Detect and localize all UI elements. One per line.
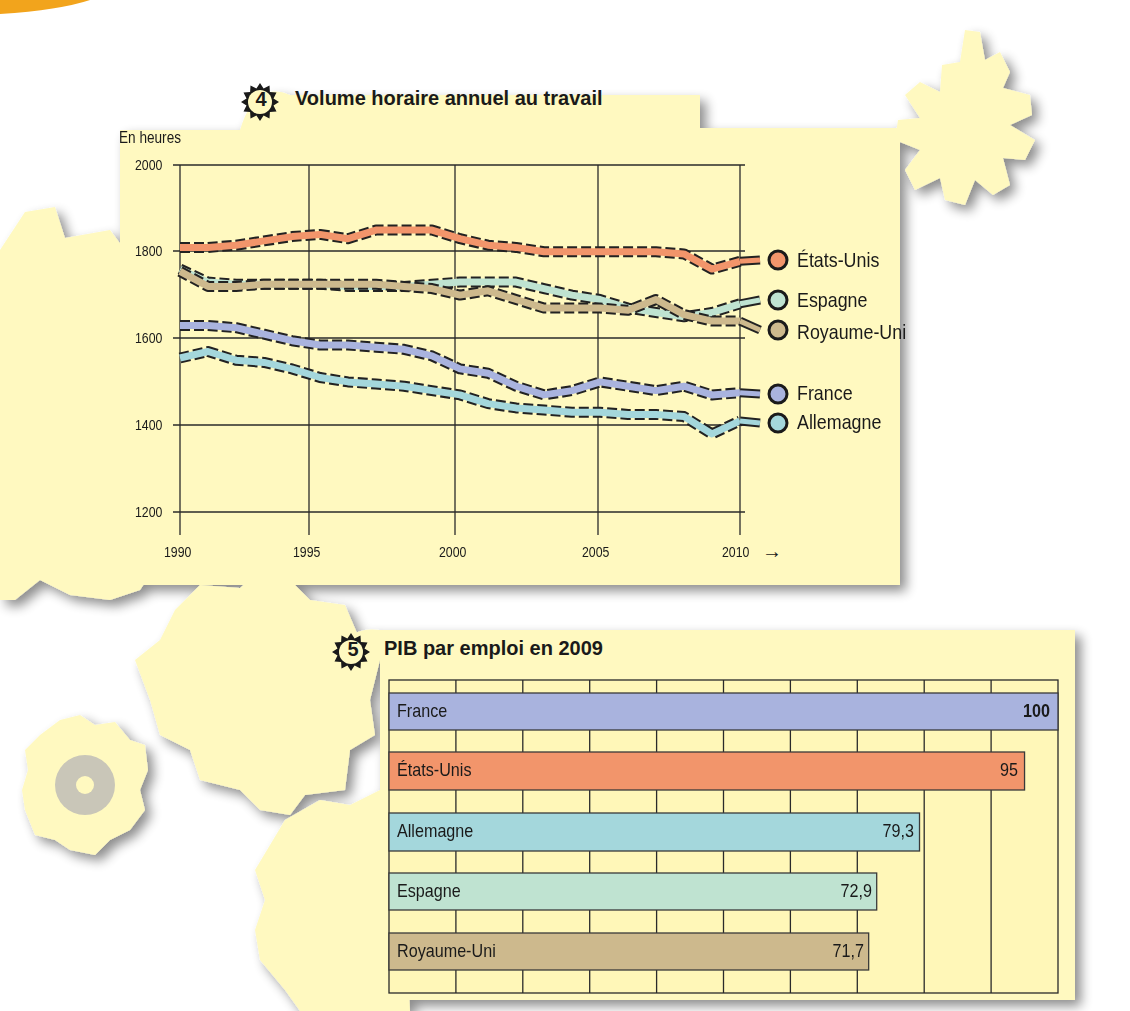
legend-marker-icon [769, 321, 787, 339]
gear-top-right-decoration [895, 30, 1035, 205]
gear-middle-decoration [135, 575, 380, 815]
x-tick-1990: 1990 [164, 543, 191, 560]
bar-label-allemagne: Allemagne [397, 820, 473, 842]
chart5-title: PIB par emploi en 2009 [384, 637, 603, 660]
infographic-background [0, 0, 1130, 1011]
top-accent-swoosh [0, 0, 90, 14]
chart4-number: 4 [252, 88, 270, 111]
y-axis-unit-label: En heures [119, 129, 181, 147]
x-tick-2000: 2000 [439, 543, 466, 560]
bar-label-espagne: Espagne [397, 880, 461, 902]
x-tick-2005: 2005 [582, 543, 609, 560]
bar [389, 693, 1058, 730]
bar-value-espagne: 72,9 [835, 880, 872, 902]
bar [389, 752, 1025, 790]
bar-value-etats-unis: 95 [984, 759, 1018, 781]
bar-label-royaume-uni: Royaume-Uni [397, 940, 496, 962]
x-tick-1995: 1995 [293, 543, 320, 560]
y-tick-1800: 1800 [135, 242, 162, 259]
legend-marker-icon [769, 291, 787, 309]
y-tick-1200: 1200 [135, 503, 162, 520]
x-tick-2010: 2010 [722, 543, 749, 560]
y-tick-1600: 1600 [135, 329, 162, 346]
bar-value-france: 100 [1016, 700, 1050, 722]
bar-value-royaume-uni: 71,7 [827, 940, 864, 962]
y-tick-1400: 1400 [135, 416, 162, 433]
y-tick-2000: 2000 [135, 156, 162, 173]
x-axis-arrow-icon: → [762, 540, 782, 563]
legend-marker-icon [769, 414, 787, 432]
legend-etats-unis: États-Unis [797, 248, 879, 272]
legend-france: France [797, 381, 853, 405]
legend-espagne: Espagne [797, 288, 867, 312]
bar-value-allemagne: 79,3 [877, 820, 914, 842]
gear-small-hole-center [76, 776, 94, 794]
bar-label-france: France [397, 700, 447, 722]
bar [389, 873, 877, 910]
chart4-title: Volume horaire annuel au travail [295, 87, 603, 110]
bar-label-etats-unis: États-Unis [397, 759, 471, 781]
legend-allemagne: Allemagne [797, 410, 881, 434]
legend-marker-icon [769, 251, 787, 269]
legend-marker-icon [769, 385, 787, 403]
chart5-number: 5 [344, 638, 362, 661]
legend-royaume-uni: Royaume-Uni [797, 320, 906, 344]
